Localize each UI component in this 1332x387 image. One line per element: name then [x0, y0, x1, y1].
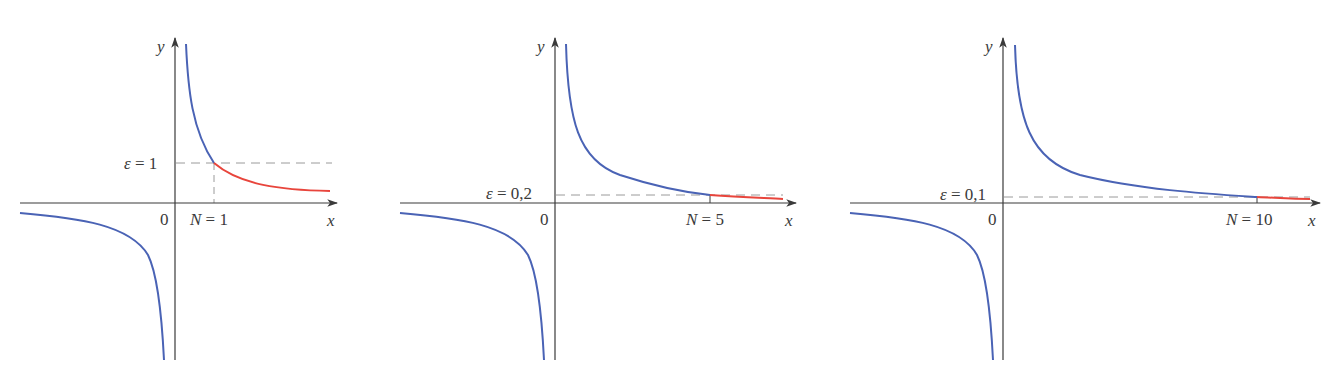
curve-right-blue	[566, 44, 710, 195]
origin-label: 0	[160, 210, 169, 229]
y-axis-label: y	[155, 37, 165, 56]
epsilon-label: ε = 0,2	[486, 184, 532, 203]
curve-right-red	[214, 163, 330, 191]
origin-label: 0	[540, 210, 549, 229]
curve-right-red	[710, 195, 783, 199]
figure-canvas: y x 0 ε = 1 N = 1 y x 0 ε = 0,2 N = 5 y …	[0, 0, 1332, 387]
origin-label: 0	[988, 210, 997, 229]
curve-left-blue	[850, 213, 993, 360]
epsilon-label: ε = 1	[124, 154, 157, 173]
y-axis-label: y	[983, 37, 993, 56]
panel-3: y x 0 ε = 0,1 N = 10	[850, 37, 1320, 360]
epsilon-label: ε = 0,1	[940, 185, 986, 204]
curve-right-blue	[1015, 45, 1257, 197]
n-label: N = 1	[189, 210, 228, 229]
curve-right-blue	[186, 44, 214, 163]
curve-left-blue	[20, 213, 164, 360]
panel-2: y x 0 ε = 0,2 N = 5	[400, 37, 796, 360]
n-label: N = 5	[685, 210, 724, 229]
curve-left-blue	[400, 213, 544, 360]
panel-1: y x 0 ε = 1 N = 1	[20, 37, 337, 360]
x-axis-label: x	[326, 211, 335, 230]
curve-right-red	[1257, 197, 1310, 199]
x-axis-label: x	[1307, 211, 1316, 230]
y-axis-label: y	[535, 37, 545, 56]
n-label: N = 10	[1225, 210, 1272, 229]
x-axis-label: x	[784, 211, 793, 230]
